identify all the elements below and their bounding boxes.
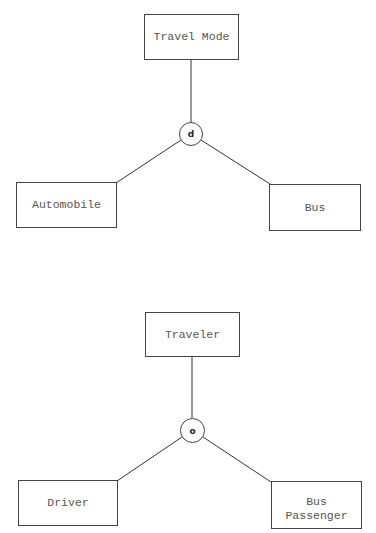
entity-traveler[interactable]: Traveler: [145, 312, 240, 357]
entity-bus[interactable]: Bus: [269, 184, 361, 231]
entity-driver[interactable]: Driver: [18, 480, 118, 526]
entity-label: Automobile: [32, 198, 101, 212]
overlap-constraint-circle: o: [180, 418, 205, 443]
entity-bus-passenger[interactable]: Bus Passenger: [271, 481, 362, 529]
entity-label: Bus: [305, 201, 326, 215]
entity-travel-mode[interactable]: Travel Mode: [144, 14, 239, 60]
entity-label: Driver: [47, 496, 88, 510]
entity-automobile[interactable]: Automobile: [16, 182, 117, 228]
disjoint-constraint-circle: d: [179, 122, 203, 146]
entity-label: Traveler: [165, 328, 220, 342]
connector-lines: [0, 0, 376, 533]
entity-label: Travel Mode: [154, 30, 230, 44]
entity-label: Bus Passenger: [285, 495, 347, 523]
